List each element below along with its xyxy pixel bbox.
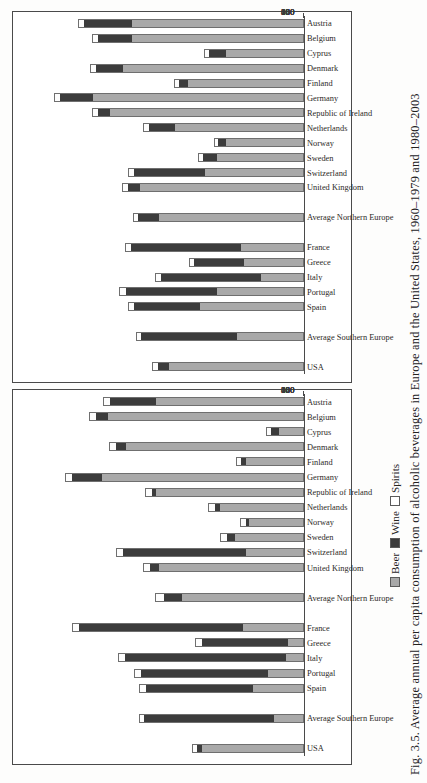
- bar-slot: [32, 299, 304, 314]
- category-labels-old: USAAverage Southern EuropeSpainPortugalI…: [305, 394, 351, 756]
- bar-segment-wine: [227, 534, 235, 541]
- stacked-bar[interactable]: [54, 93, 304, 102]
- stacked-bar[interactable]: [189, 258, 304, 267]
- bar-segment-beer: [249, 519, 303, 526]
- category-label-text: Norway: [307, 138, 334, 147]
- category-label: Italy: [305, 650, 351, 665]
- bar-slot: [32, 255, 304, 270]
- bar-segment-beer: [202, 745, 303, 752]
- category-label: Netherlands: [305, 500, 351, 515]
- stacked-bar[interactable]: [65, 473, 304, 482]
- stacked-bar[interactable]: [139, 714, 304, 723]
- category-label-text: Belgium: [307, 412, 336, 421]
- stacked-bar[interactable]: [118, 654, 304, 663]
- stacked-bar[interactable]: [103, 397, 304, 406]
- bar-spacer: [32, 696, 304, 711]
- stacked-bar[interactable]: [204, 49, 304, 58]
- category-label-text: Austria: [307, 19, 332, 28]
- stacked-bar[interactable]: [109, 442, 304, 451]
- chart-legend: Beer Wine Spirits: [389, 464, 401, 587]
- bar-segment-wine: [146, 685, 253, 692]
- stacked-bar[interactable]: [72, 623, 304, 632]
- bar-slot: [32, 500, 304, 515]
- stacked-bar[interactable]: [152, 362, 304, 371]
- bar-segment-wine: [149, 124, 175, 131]
- stacked-bar[interactable]: [128, 302, 304, 311]
- stacked-bar[interactable]: [92, 34, 304, 43]
- stacked-bar[interactable]: [116, 548, 304, 557]
- bar-segment-beer: [246, 549, 303, 556]
- stacked-bar[interactable]: [133, 213, 304, 222]
- bar-segment-wine: [123, 549, 245, 556]
- bar-slot: [32, 165, 304, 180]
- stacked-bar[interactable]: [136, 332, 304, 341]
- bar-spacer: [32, 605, 304, 620]
- category-label-empty: [305, 726, 351, 741]
- bar-segment-wine: [218, 139, 226, 146]
- category-label-text: Republic of Ireland: [307, 108, 372, 117]
- bar-segment-wine: [125, 655, 287, 662]
- bar-slot: [32, 270, 304, 285]
- stacked-bar[interactable]: [89, 412, 304, 421]
- stacked-bar[interactable]: [236, 457, 304, 466]
- bar-slot: [32, 650, 304, 665]
- bar-segment-wine: [126, 288, 217, 295]
- category-label: Cyprus: [305, 424, 351, 439]
- bar-slot: [32, 240, 304, 255]
- bar-segment-beer: [159, 214, 303, 221]
- category-label-text: Switzerland: [307, 168, 347, 177]
- bar-segment-wine: [271, 428, 279, 435]
- stacked-bar[interactable]: [155, 593, 304, 602]
- bar-segment-beer: [132, 20, 303, 27]
- stacked-bar[interactable]: [266, 427, 304, 436]
- stacked-bar[interactable]: [198, 153, 304, 162]
- stacked-bar[interactable]: [143, 123, 304, 132]
- bar-segment-beer: [244, 259, 303, 266]
- category-label-text: Germany: [307, 93, 338, 102]
- category-label-text: Cyprus: [307, 427, 331, 436]
- stacked-bar[interactable]: [214, 138, 304, 147]
- bar-segment-beer: [123, 65, 303, 72]
- category-label-text: Netherlands: [307, 123, 347, 132]
- bar-segment-wine: [128, 184, 140, 191]
- bar-segment-beer: [156, 489, 303, 496]
- stacked-bar[interactable]: [90, 64, 304, 73]
- stacked-bar[interactable]: [78, 19, 304, 28]
- bar-slot: [32, 105, 304, 120]
- spirits-swatch-icon: [390, 496, 400, 506]
- bar-slot: [32, 711, 304, 726]
- stacked-bar[interactable]: [174, 79, 304, 88]
- stacked-bar[interactable]: [128, 168, 304, 177]
- stacked-bar[interactable]: [208, 503, 304, 512]
- category-label-empty: [305, 195, 351, 210]
- stacked-bar[interactable]: [145, 488, 304, 497]
- stacked-bar[interactable]: [155, 273, 304, 282]
- stacked-bar[interactable]: [195, 638, 304, 647]
- stacked-bar[interactable]: [119, 287, 304, 296]
- stacked-bar[interactable]: [125, 243, 304, 252]
- stacked-bar[interactable]: [240, 518, 304, 527]
- stacked-bar[interactable]: [143, 563, 304, 572]
- legend-label-wine: Wine: [389, 511, 401, 535]
- category-label: Finland: [305, 454, 351, 469]
- bar-spacer: [32, 195, 304, 210]
- bar-slot: [32, 409, 304, 424]
- bar-spacer: [32, 575, 304, 590]
- bar-spacer: [32, 344, 304, 359]
- stacked-bar[interactable]: [134, 669, 304, 678]
- category-label-text: United Kingdom: [307, 563, 364, 572]
- stacked-bar[interactable]: [92, 108, 304, 117]
- bar-segment-beer: [217, 154, 303, 161]
- stacked-bar[interactable]: [220, 533, 304, 542]
- stacked-bar[interactable]: [139, 684, 304, 693]
- category-label-text: Greece: [307, 258, 331, 267]
- category-label: Greece: [305, 255, 351, 270]
- legend-item-wine: Wine: [389, 511, 401, 548]
- bar-slot: [32, 470, 304, 485]
- category-label-text: Sweden: [307, 533, 334, 542]
- bar-segment-wine: [84, 20, 132, 27]
- stacked-bar[interactable]: [192, 744, 304, 753]
- stacked-bar[interactable]: [122, 183, 304, 192]
- bar-slot: [32, 46, 304, 61]
- bar-spacer: [32, 225, 304, 240]
